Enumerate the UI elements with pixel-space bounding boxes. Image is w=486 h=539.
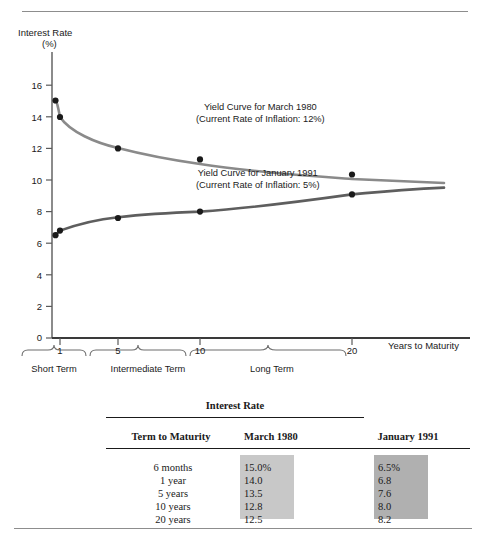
table-row: 5 years xyxy=(106,487,240,500)
brace-intermediate-term xyxy=(90,345,186,356)
table-cell-january-1991: 6.5% xyxy=(378,461,426,474)
x-axis-ticks xyxy=(60,338,352,345)
interest-rate-table: Interest Rate Term to Maturity March 198… xyxy=(0,398,486,528)
table-cell-march-1980: 13.5 xyxy=(244,487,292,500)
table-row: 1 year xyxy=(106,474,240,487)
x-tick-5: 5 xyxy=(106,345,130,356)
data-points-january-1991 xyxy=(52,191,355,238)
data-point xyxy=(349,171,355,177)
column-header-march-1980: March 1980 xyxy=(212,431,330,442)
table-cell-march-1980: 12.5 xyxy=(244,513,292,526)
brace-label-long-term: Long Term xyxy=(230,364,314,375)
data-point xyxy=(52,97,58,103)
table-cell-january-1991: 8.0 xyxy=(378,500,426,513)
y-axis-ticks xyxy=(46,85,52,338)
table-row: 20 years xyxy=(106,513,240,526)
x-tick-20: 20 xyxy=(340,345,364,356)
y-tick-12: 12 xyxy=(22,143,42,154)
data-point xyxy=(197,209,203,215)
y-tick-16: 16 xyxy=(22,80,42,91)
table-cell-january-1991: 6.8 xyxy=(378,474,426,487)
y-tick-4: 4 xyxy=(22,270,42,281)
annotation-january-1991-line2: (Current Rate of Inflation: 5%) xyxy=(196,180,320,192)
table-group-header: Interest Rate xyxy=(106,400,364,411)
annotation-january-1991-line1: Yield Curve for January 1991 xyxy=(196,168,320,180)
brace-label-short-term: Short Term xyxy=(16,364,92,375)
annotation-march-1980: Yield Curve for March 1980 (Current Rate… xyxy=(196,102,325,125)
curve-january-1991 xyxy=(55,188,444,236)
table-row: 10 years xyxy=(106,500,240,513)
y-axis-unit-label: (%) xyxy=(42,38,57,49)
yield-curve-chart: Interest Rate (%) Years to Maturity 16 1… xyxy=(0,0,486,396)
table-header-rule xyxy=(106,448,470,449)
y-tick-10: 10 xyxy=(22,175,42,186)
data-point xyxy=(52,232,58,238)
data-point xyxy=(197,156,203,162)
data-point xyxy=(115,145,121,151)
chart-canvas xyxy=(0,0,486,396)
bottom-divider-rule xyxy=(14,528,472,529)
table-cell-march-1980: 14.0 xyxy=(244,474,292,487)
data-point xyxy=(349,191,355,197)
column-header-january-1991: January 1991 xyxy=(346,431,470,442)
y-tick-0: 0 xyxy=(22,332,42,343)
table-cell-march-1980: 15.0% xyxy=(244,461,292,474)
x-tick-10: 10 xyxy=(188,345,212,356)
y-tick-2: 2 xyxy=(22,301,42,312)
x-tick-1: 1 xyxy=(48,345,72,356)
table-row: 6 months xyxy=(106,461,240,474)
annotation-march-1980-line2: (Current Rate of Inflation: 12%) xyxy=(196,114,325,126)
brace-label-intermediate-term: Intermediate Term xyxy=(104,364,192,375)
data-point xyxy=(57,228,63,234)
brace-long-term xyxy=(190,345,346,356)
table-cell-january-1991: 8.2 xyxy=(378,513,426,526)
data-point xyxy=(115,215,121,221)
x-axis-title: Years to Maturity xyxy=(388,340,459,351)
table-cell-january-1991: 7.6 xyxy=(378,487,426,500)
y-tick-14: 14 xyxy=(22,112,42,123)
table-cell-march-1980: 12.8 xyxy=(244,500,292,513)
y-tick-6: 6 xyxy=(22,238,42,249)
y-axis-title: Interest Rate xyxy=(18,27,72,38)
table-group-header-rule xyxy=(106,417,364,418)
data-point xyxy=(57,114,63,120)
annotation-march-1980-line1: Yield Curve for March 1980 xyxy=(196,102,325,114)
annotation-january-1991: Yield Curve for January 1991 (Current Ra… xyxy=(196,168,320,191)
y-tick-8: 8 xyxy=(22,206,42,217)
